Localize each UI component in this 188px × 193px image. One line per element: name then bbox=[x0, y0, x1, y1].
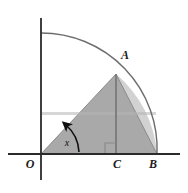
label-apex: A bbox=[120, 48, 129, 62]
diagram-canvas: O A C B x bbox=[0, 0, 188, 193]
label-angle-x: x bbox=[64, 137, 70, 148]
label-base-end: B bbox=[148, 157, 157, 171]
label-foot: C bbox=[113, 157, 122, 171]
label-origin: O bbox=[26, 157, 35, 171]
interior-shading-band bbox=[42, 112, 156, 115]
geometry-figure: O A C B x bbox=[0, 0, 188, 193]
